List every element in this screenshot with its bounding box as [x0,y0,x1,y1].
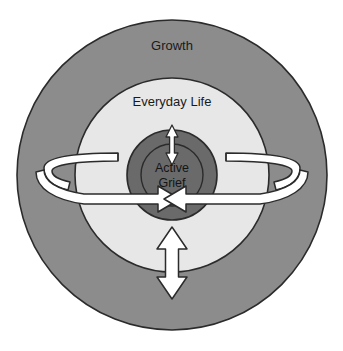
active-grief-label-line-1: Active [155,161,189,175]
grief-growth-diagram: Growth Everyday Life Active Grief [0,0,343,351]
growth-ring-label: Growth [151,38,193,53]
active-grief-label-line-2: Grief [158,176,186,190]
everyday-life-ring-label: Everyday Life [133,94,212,109]
diagram-canvas: Growth Everyday Life Active Grief [0,0,343,351]
